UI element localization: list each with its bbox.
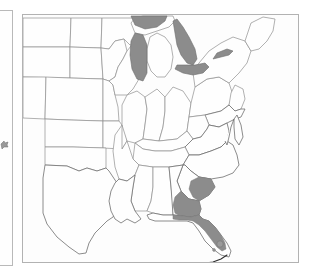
state-michigan-lower [147,33,173,77]
lake-huron [173,19,197,65]
lake-okeechobee-small [213,249,216,252]
state-north-dakota [70,18,102,48]
state-colorado [23,77,46,119]
state-kansas [45,119,103,148]
adjacent-figure-panel-sliver [0,10,13,266]
state-montana-dakota-block [23,18,71,47]
figure-root [0,0,317,274]
distribution-map-panel [22,14,299,263]
lake-okeechobee [217,241,223,247]
us-map-svg [23,15,298,262]
state-south-dakota [70,47,103,79]
adjacent-panel-mark-icon [0,139,9,150]
state-new-england [245,17,275,51]
state-wyoming [23,47,70,78]
state-nebraska [45,77,103,121]
delmarva-peninsula [234,115,243,145]
